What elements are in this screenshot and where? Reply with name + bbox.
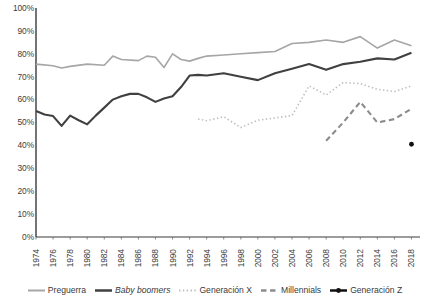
x-axis-tick-label: 1988 xyxy=(151,240,159,276)
x-axis-tick-label: 1990 xyxy=(168,240,176,276)
legend-item[interactable]: Generación Z xyxy=(330,286,402,295)
x-axis-tick-label: 2016 xyxy=(390,240,398,276)
legend-item[interactable]: Baby boomers xyxy=(95,286,170,295)
x-axis-tick-label: 1998 xyxy=(237,240,245,276)
chart-container: 100%90%80%70%60%50%40%30%20%10%0% 197419… xyxy=(0,0,430,301)
chart-legend: PreguerraBaby boomersGeneración XMillenn… xyxy=(0,281,430,299)
legend-item[interactable]: Millennials xyxy=(261,286,321,295)
x-axis-tick-label: 1994 xyxy=(202,240,210,276)
legend-item-label: Millennials xyxy=(281,286,321,295)
x-axis-tick-label: 2008 xyxy=(322,240,330,276)
legend-item[interactable]: Generación X xyxy=(179,286,252,295)
legend-line-solid-gray-icon xyxy=(28,286,45,295)
x-axis-tick-label: 2006 xyxy=(305,240,313,276)
x-axis-tick-label: 2002 xyxy=(271,240,279,276)
x-axis-tick-label: 1992 xyxy=(185,240,193,276)
series-generacin-x xyxy=(198,82,411,127)
x-axis-tick-label: 2012 xyxy=(356,240,364,276)
legend-item-label: Preguerra xyxy=(48,286,86,295)
legend-item-label: Generación X xyxy=(199,286,252,295)
x-axis-tick-label: 1976 xyxy=(49,240,57,276)
x-axis-tick-label: 2014 xyxy=(373,240,381,276)
x-axis-tick-label: 1974 xyxy=(32,240,40,276)
x-axis-labels: 1974197619781980198219841986198819901992… xyxy=(0,240,430,278)
series-millennials xyxy=(326,102,411,141)
legend-line-dashed-gray-icon xyxy=(261,286,278,295)
legend-line-solid-dark-icon xyxy=(95,286,112,295)
series-line xyxy=(198,82,411,127)
x-axis-tick-label: 1996 xyxy=(220,240,228,276)
series-point-marker xyxy=(409,142,414,147)
legend-item-label: Generación Z xyxy=(350,286,402,295)
x-axis-tick-label: 1986 xyxy=(134,240,142,276)
series-line xyxy=(326,102,411,141)
x-axis-tick-label: 1978 xyxy=(66,240,74,276)
legend-line-dot-black-icon xyxy=(330,286,347,295)
x-axis-tick-label: 2010 xyxy=(339,240,347,276)
x-axis-tick-label: 2000 xyxy=(254,240,262,276)
legend-line-dotted-light-icon xyxy=(179,286,196,295)
x-axis-tick-label: 2018 xyxy=(407,240,415,276)
x-axis-tick-label: 2004 xyxy=(288,240,296,276)
x-axis-tick-label: 1980 xyxy=(83,240,91,276)
legend-item-label: Baby boomers xyxy=(115,286,170,295)
legend-item[interactable]: Preguerra xyxy=(28,286,86,295)
series-generacin-z xyxy=(409,142,414,147)
x-axis-tick-label: 1984 xyxy=(117,240,125,276)
x-axis-tick-label: 1982 xyxy=(100,240,108,276)
